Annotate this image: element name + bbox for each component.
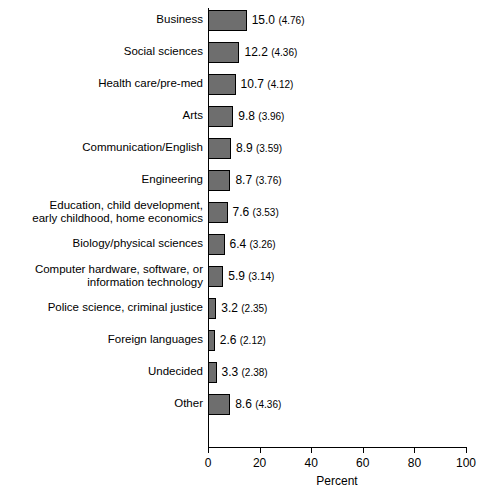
bar — [208, 394, 230, 415]
bar-value: 12.2 — [244, 45, 271, 59]
bar-error-value: (3.96) — [258, 111, 284, 122]
bar-value-label: 7.6 (3.53) — [233, 205, 279, 220]
chart-row: Foreign languages2.6 (2.12) — [0, 330, 489, 351]
category-label: Health care/pre-med — [0, 77, 203, 90]
bar-error-value: (3.26) — [250, 239, 276, 250]
bar-value: 2.6 — [220, 333, 240, 347]
bar-value: 10.7 — [241, 77, 268, 91]
bar-value: 6.4 — [230, 237, 250, 251]
bar-error-value: (2.38) — [242, 367, 268, 378]
bar-value: 8.9 — [236, 141, 256, 155]
x-axis-tick-label: 0 — [188, 456, 228, 470]
bar-error-value: (4.36) — [271, 47, 297, 58]
category-label: Arts — [0, 109, 203, 122]
category-label: Computer hardware, software, or informat… — [0, 263, 203, 289]
x-axis-tick — [208, 447, 209, 453]
bar-error-value: (3.76) — [255, 175, 281, 186]
bar-value: 15.0 — [252, 13, 279, 27]
bar — [208, 138, 231, 159]
bar — [208, 298, 216, 319]
bar-value-label: 5.9 (3.14) — [228, 269, 274, 284]
bar-error-value: (2.35) — [241, 303, 267, 314]
bar-value-label: 12.2 (4.36) — [244, 45, 297, 60]
category-label: Foreign languages — [0, 333, 203, 346]
bar-value-label: 8.6 (4.36) — [235, 397, 281, 412]
bar-value: 7.6 — [233, 205, 253, 219]
bar-error-value: (4.76) — [278, 15, 304, 26]
chart-row: Education, child development, early chil… — [0, 202, 489, 223]
y-axis-line — [208, 8, 209, 447]
x-axis-tick-label: 100 — [446, 456, 486, 470]
bar-value-label: 2.6 (2.12) — [220, 333, 266, 348]
bar-value-label: 3.2 (2.35) — [221, 301, 267, 316]
chart-row: Engineering8.7 (3.76) — [0, 170, 489, 191]
bar — [208, 362, 217, 383]
bar-value: 3.2 — [221, 301, 241, 315]
bar — [208, 234, 225, 255]
category-label: Communication/English — [0, 141, 203, 154]
x-axis-line — [208, 447, 466, 448]
bar — [208, 10, 247, 31]
chart-row: Other8.6 (4.36) — [0, 394, 489, 415]
chart-row: Business15.0 (4.76) — [0, 10, 489, 31]
bar-value-label: 10.7 (4.12) — [241, 77, 294, 92]
bar — [208, 74, 236, 95]
chart-row: Undecided3.3 (2.38) — [0, 362, 489, 383]
x-axis-title: Percent — [208, 474, 466, 488]
bar-error-value: (4.36) — [255, 399, 281, 410]
category-label: Biology/physical sciences — [0, 237, 203, 250]
bar-value-label: 6.4 (3.26) — [230, 237, 276, 252]
bar-value: 5.9 — [228, 269, 248, 283]
category-label: Business — [0, 13, 203, 26]
x-axis-tick — [363, 447, 364, 453]
chart-row: Communication/English8.9 (3.59) — [0, 138, 489, 159]
category-label: Social sciences — [0, 45, 203, 58]
category-label: Education, child development, early chil… — [0, 199, 203, 225]
bar — [208, 202, 228, 223]
chart-row: Health care/pre-med10.7 (4.12) — [0, 74, 489, 95]
bar-value: 3.3 — [222, 365, 242, 379]
chart-row: Biology/physical sciences6.4 (3.26) — [0, 234, 489, 255]
x-axis-tick — [260, 447, 261, 453]
x-axis-tick-label: 60 — [343, 456, 383, 470]
x-axis-tick-label: 80 — [394, 456, 434, 470]
bar — [208, 106, 233, 127]
bar-error-value: (4.12) — [267, 79, 293, 90]
chart-row: Police science, criminal justice3.2 (2.3… — [0, 298, 489, 319]
bar-error-value: (3.53) — [253, 207, 279, 218]
bar-chart: Business15.0 (4.76)Social sciences12.2 (… — [0, 0, 489, 493]
bar — [208, 170, 230, 191]
category-label: Engineering — [0, 173, 203, 186]
bar-error-value: (3.59) — [256, 143, 282, 154]
bar — [208, 42, 239, 63]
chart-row: Social sciences12.2 (4.36) — [0, 42, 489, 63]
bar-value-label: 15.0 (4.76) — [252, 13, 305, 28]
bar-value: 9.8 — [238, 109, 258, 123]
x-axis-tick-label: 40 — [291, 456, 331, 470]
x-axis-tick — [466, 447, 467, 453]
category-label: Undecided — [0, 365, 203, 378]
x-axis-tick-label: 20 — [240, 456, 280, 470]
x-axis-tick — [414, 447, 415, 453]
bar-value-label: 3.3 (2.38) — [222, 365, 268, 380]
bar-value-label: 8.9 (3.59) — [236, 141, 282, 156]
chart-row: Computer hardware, software, or informat… — [0, 266, 489, 287]
bar — [208, 266, 223, 287]
bar — [208, 330, 215, 351]
bar-value: 8.6 — [235, 397, 255, 411]
category-label: Other — [0, 397, 203, 410]
bar-error-value: (3.14) — [248, 271, 274, 282]
bar-value-label: 9.8 (3.96) — [238, 109, 284, 124]
category-label: Police science, criminal justice — [0, 301, 203, 314]
bar-value-label: 8.7 (3.76) — [235, 173, 281, 188]
bar-value: 8.7 — [235, 173, 255, 187]
bar-error-value: (2.12) — [240, 335, 266, 346]
chart-row: Arts9.8 (3.96) — [0, 106, 489, 127]
x-axis-tick — [311, 447, 312, 453]
